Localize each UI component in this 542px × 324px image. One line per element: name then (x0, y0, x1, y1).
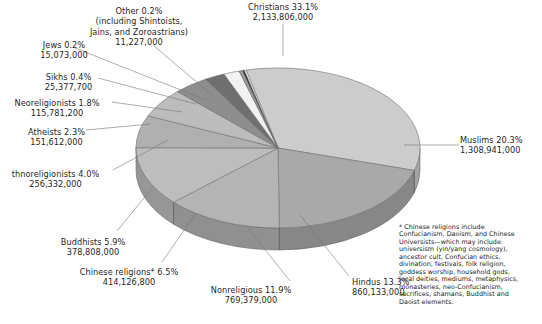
label-other-name: Other 0.2% (73, 6, 205, 16)
slice-label-ethnoreligionists: thnoreligionists 4.0% 256,332,000 (0, 169, 113, 190)
label-atheists-name: Atheists 2.3% (14, 127, 99, 137)
label-sikhs-name: Sikhs 0.4% (26, 72, 111, 82)
slice-label-atheists: Atheists 2.3% 151,612,000 (14, 127, 99, 148)
slice-label-sikhs: Sikhs 0.4% 25,377,700 (26, 72, 111, 93)
label-buddhists-name: Buddhists 5.9% (41, 237, 145, 247)
label-christians-name: Christians 33.1% (213, 2, 353, 12)
slice-label-nonreligious: Nonreligious 11.9% 769,379,000 (196, 285, 306, 306)
label-other-detail-1: (including Shintoists, (73, 16, 205, 26)
label-muslims-name: Muslims 20.3% (460, 135, 542, 145)
slice-label-buddhists: Buddhists 5.9% 378,808,000 (41, 237, 145, 258)
label-christians-count: 2,133,806,000 (213, 12, 353, 22)
label-nonreligious-name: Nonreligious 11.9% (196, 285, 306, 295)
label-sikhs-count: 25,377,700 (26, 82, 111, 92)
label-nonreligious-count: 769,379,000 (196, 295, 306, 305)
label-chinese-religions-name: Chinese religions* 6.5% (64, 267, 194, 277)
label-other-count: 11,227,000 (73, 37, 205, 47)
slice-label-chinese-religions: Chinese religions* 6.5% 414,126,800 (64, 267, 194, 288)
pie-slices-group (136, 68, 420, 250)
slice-label-christians: Christians 33.1% 2,133,806,000 (213, 2, 353, 23)
slice-label-muslims: Muslims 20.3% 1,308,941,000 (460, 135, 542, 156)
footnote-line: Daoist elements. (399, 299, 539, 306)
label-atheists-count: 151,612,000 (14, 137, 99, 147)
pie-chart-page: Christians 33.1% 2,133,806,000 Muslims 2… (0, 0, 542, 324)
label-ethnoreligionists-name: thnoreligionists 4.0% (0, 169, 113, 179)
label-chinese-religions-count: 414,126,800 (64, 277, 194, 287)
label-muslims-count: 1,308,941,000 (460, 145, 542, 155)
label-other-detail-2: Jains, and Zoroastrians) (73, 27, 205, 37)
label-neoreligionists-count: 115,781,200 (0, 108, 116, 118)
label-ethnoreligionists-count: 256,332,000 (0, 179, 113, 189)
leader-line (117, 188, 152, 231)
chinese-religions-footnote: * Chinese religions includeConfucianism,… (399, 224, 539, 306)
label-jews-count: 15,073,000 (21, 50, 107, 60)
slice-label-other: Other 0.2% (including Shintoists, Jains,… (73, 6, 205, 48)
slice-label-neoreligionists: Neoreligionists 1.8% 115,781,200 (0, 98, 116, 119)
label-buddhists-count: 378,808,000 (41, 247, 145, 257)
label-neoreligionists-name: Neoreligionists 1.8% (0, 98, 116, 108)
